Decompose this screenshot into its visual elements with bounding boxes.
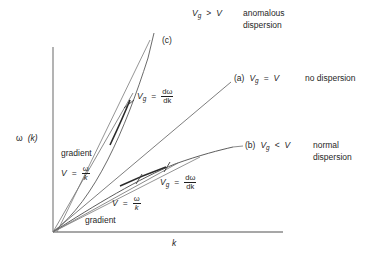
group-velocity-upper-annotation: Vg=dωdk: [137, 88, 173, 104]
curve-b-dispersion-line2: dispersion: [313, 152, 352, 163]
curve-b-annotation: (b)Vg<V: [245, 140, 290, 152]
curve-b-dispersion-line1: normal: [313, 140, 339, 151]
plot-canvas: [0, 0, 377, 258]
curve-c-dispersion-line2: dispersion: [243, 20, 282, 31]
y-axis-arg: (k): [28, 133, 38, 143]
phase-velocity-upper-gradient-word: gradient: [61, 148, 92, 159]
x-axis-label: k: [172, 238, 176, 249]
group-velocity-upper-fraction: dωdk: [161, 88, 173, 104]
tangent-contact-segment-c: [110, 100, 130, 145]
curve-b-id-label: (b): [245, 140, 255, 150]
phase-velocity-upper-annotation: V=ωk: [61, 165, 90, 181]
curve-a-dispersion: no dispersion: [305, 73, 356, 84]
group-velocity-lower-fraction: dωdk: [184, 174, 196, 190]
phase-velocity-lower-annotation: V=ωk: [112, 195, 141, 211]
curve-b-normal: [53, 147, 233, 232]
curve-c-relation: Vg>V: [192, 8, 222, 20]
phase-velocity-upper-fraction: ωk: [82, 165, 90, 181]
dispersion-figure: ω(k) k (c) Vg>V anomalous dispersion (a)…: [0, 0, 377, 258]
phase-velocity-lower-gradient-word: gradient: [85, 215, 116, 226]
curve-c-dispersion-line1: anomalous: [243, 8, 285, 19]
curve-c-id-label: (c): [162, 35, 172, 46]
y-axis-omega: ω: [16, 133, 23, 143]
curve-a-id-label: (a): [234, 73, 244, 83]
group-velocity-lower-annotation: Vg=dωdk: [160, 174, 196, 190]
curve-c-annotation: Vg>V: [192, 8, 222, 20]
leader-line-curve-b: [233, 146, 243, 147]
y-axis-label: ω(k): [16, 133, 38, 144]
curve-a-annotation: (a)Vg=V: [234, 73, 279, 85]
phase-velocity-lower-fraction: ωk: [133, 195, 141, 211]
